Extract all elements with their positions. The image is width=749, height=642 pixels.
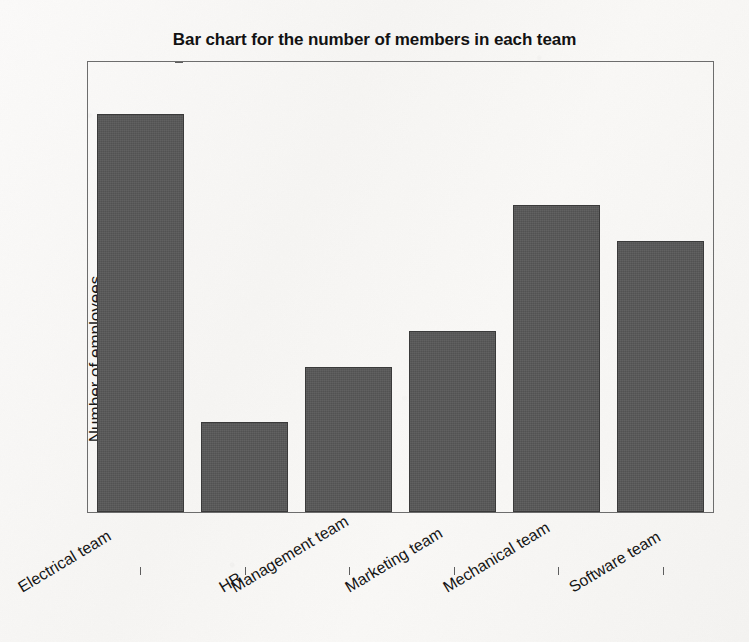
x-tick-mark-3 — [349, 567, 350, 575]
bar-hr[interactable] — [201, 422, 288, 512]
figure-canvas: Bar chart for the number of members in e… — [0, 0, 749, 642]
x-tick-label-marketing-team: Marketing team — [342, 524, 446, 596]
x-tick-label-mechanical-team: Mechanical team — [440, 519, 553, 597]
x-tick-mark-6 — [663, 567, 664, 575]
bar-software-team[interactable] — [617, 241, 704, 512]
bar-electrical-team[interactable] — [97, 114, 184, 512]
bar-marketing-team[interactable] — [409, 331, 496, 512]
x-tick-label-software-team: Software team — [566, 528, 664, 597]
bar-management-team[interactable] — [305, 367, 392, 512]
x-tick-mark-1 — [140, 567, 141, 575]
x-tick-label-electrical-team: Electrical team — [15, 527, 114, 596]
bar-mechanical-team[interactable] — [513, 205, 600, 512]
x-tick-mark-5 — [558, 567, 559, 575]
plot-area: Number of employees 25 20 15 10 5 0 — [87, 61, 714, 513]
bar-series — [88, 62, 713, 512]
chart-title: Bar chart for the number of members in e… — [0, 30, 749, 50]
x-tick-label-management-team: Management team — [228, 512, 352, 596]
